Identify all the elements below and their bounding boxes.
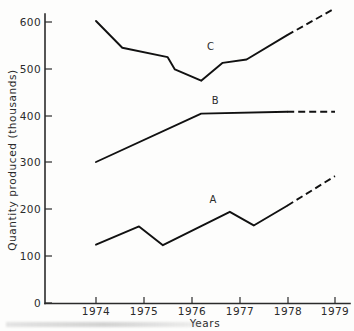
y-axis-tick-labels: 600 500 400 300 200 100 0 <box>20 16 41 309</box>
series-label-c: C <box>207 41 214 52</box>
y-tick-label-600: 600 <box>20 16 41 28</box>
x-axis-ticks <box>96 297 335 303</box>
series-group <box>96 8 335 245</box>
x-tick-label-1977: 1977 <box>226 305 254 317</box>
series-a-dashed <box>287 176 335 206</box>
y-axis: 600 500 400 300 200 100 0 Quantity produ… <box>6 14 52 309</box>
series-a-solid <box>96 206 287 245</box>
y-tick-label-0: 0 <box>34 297 41 309</box>
y-tick-label-400: 400 <box>20 110 41 122</box>
y-tick-label-100: 100 <box>20 250 41 262</box>
y-tick-label-300: 300 <box>20 156 41 168</box>
series-label-b: B <box>212 95 219 106</box>
y-axis-title: Quantity produced (thousands) <box>6 69 18 251</box>
series-c-solid <box>96 21 287 81</box>
x-tick-label-1975: 1975 <box>130 305 158 317</box>
y-tick-label-500: 500 <box>20 63 41 75</box>
y-tick-label-200: 200 <box>20 203 41 215</box>
x-tick-label-1976: 1976 <box>178 305 206 317</box>
x-axis-tick-labels: 1974 1975 1976 1977 1978 1979 <box>82 305 349 317</box>
x-axis: 1974 1975 1976 1977 1978 1979 Years <box>45 297 350 329</box>
x-tick-label-1974: 1974 <box>82 305 110 317</box>
line-chart: 600 500 400 300 200 100 0 Quantity produ… <box>0 0 354 331</box>
series-c-dashed <box>287 8 335 35</box>
x-tick-label-1978: 1978 <box>274 305 302 317</box>
x-axis-title: Years <box>189 317 221 329</box>
series-labels: A B C <box>207 41 219 206</box>
chart-canvas: 600 500 400 300 200 100 0 Quantity produ… <box>0 0 354 331</box>
x-tick-label-1979: 1979 <box>321 305 349 317</box>
series-label-a: A <box>209 194 216 205</box>
y-axis-ticks <box>45 22 52 303</box>
series-b-solid <box>96 112 287 162</box>
